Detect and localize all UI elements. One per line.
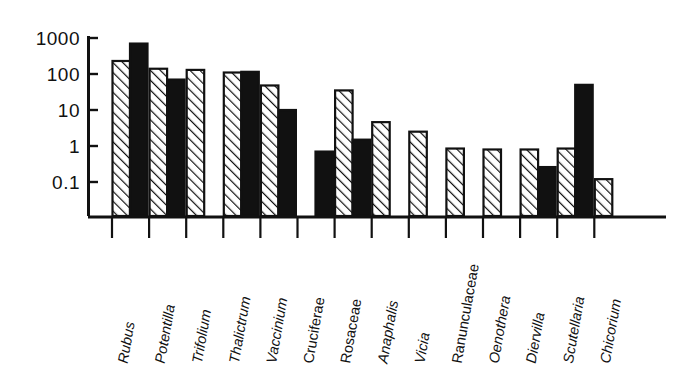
bar-hatched [335,90,353,216]
bar-solid [316,152,334,216]
bar-hatched [409,132,427,216]
log-bar-chart-figure: 10001001010.1 RubusPotentillaTrifoliumTh… [0,0,695,388]
bar-solid [575,85,593,216]
bar-solid [130,44,148,216]
bar-solid [538,167,556,216]
bar-hatched [372,122,390,216]
bar-hatched [558,149,576,216]
bar-hatched [187,70,205,216]
bar-solid [167,80,185,216]
bar-hatched [446,149,464,216]
y-tick-label: 1000 [36,28,80,49]
bar-hatched [595,179,613,216]
y-tick-label: 1 [69,136,80,157]
bar-hatched [261,85,279,216]
bar-hatched [484,149,502,216]
bar-solid [353,140,371,216]
bar-hatched [113,61,131,216]
bar-hatched [224,73,242,216]
bar-hatched [150,69,168,216]
y-tick-label: 10 [58,100,80,121]
y-tick-label: 0.1 [52,172,80,193]
y-tick-label: 100 [47,64,80,85]
bar-solid [241,72,258,216]
bar-hatched [521,149,539,216]
bar-solid [278,110,296,216]
chart-canvas: 10001001010.1 RubusPotentillaTrifoliumTh… [0,0,695,388]
